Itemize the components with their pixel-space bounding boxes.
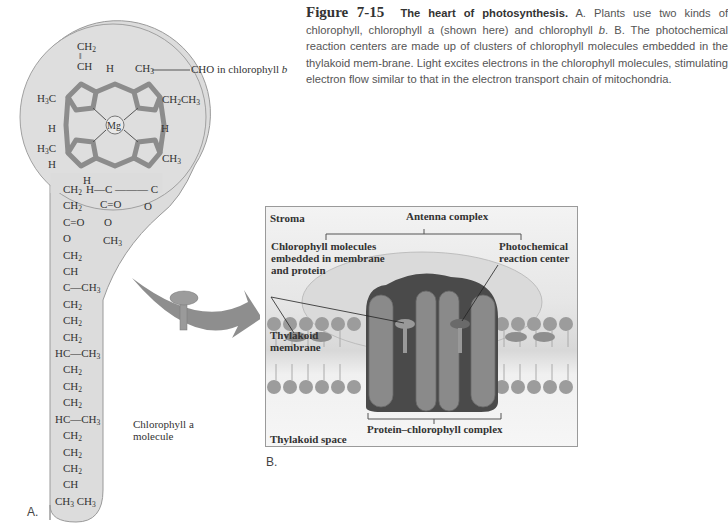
reaction-center-line1: Photochemical: [499, 240, 568, 252]
label-ch3-ester: CH3: [103, 234, 122, 246]
reaction-center-label: Photochemical reaction center: [499, 240, 569, 264]
molecule-label-line1: Chlorophyll a: [133, 418, 194, 430]
label-ch2ch3: CH2CH3: [162, 93, 200, 105]
panel-a-letter: A.: [27, 505, 38, 519]
phytol-tail: CH2CH2C=OOCH2CHC—CH3CH2CH2CH2HC—CH3CH2CH…: [63, 181, 100, 509]
panel-b-letter: B.: [266, 455, 277, 469]
label-ch: CH: [77, 60, 92, 72]
thylakoid-membrane-line2: membrane: [270, 341, 321, 353]
label-c-o: C=O: [100, 198, 121, 210]
label-ch3-top: CH3: [135, 62, 154, 74]
arrow-icon: [132, 278, 260, 338]
chlorophyll-label-line3: and protein: [271, 264, 326, 276]
molecule-label-line2: molecule: [133, 430, 173, 442]
thylakoid-membrane-panel: Stroma Antenna complex Chlorophyll molec…: [265, 206, 578, 447]
chlorophyll-label: Chlorophyll molecules embedded in membra…: [271, 240, 385, 276]
chlorophyll-molecule-diagram: [0, 0, 260, 526]
antenna-complex-label: Antenna complex: [406, 210, 488, 222]
label-ch3-right: CH3: [162, 152, 181, 164]
reaction-center-line2: reaction center: [499, 252, 569, 264]
label-mg: Mg: [107, 120, 121, 131]
protein-helices: [369, 291, 495, 411]
thylakoid-space-label: Thylakoid space: [270, 433, 347, 445]
stroma-label: Stroma: [270, 212, 305, 224]
label-h3c-1: H3C: [37, 92, 56, 104]
chlorophyll-label-line2: embedded in membrane: [271, 252, 385, 264]
label-o-ketone: O: [144, 200, 152, 212]
figure-number: Figure 7-15: [306, 4, 384, 20]
figure-caption: Figure 7-15 The heart of photosynthesis.…: [306, 4, 728, 88]
label-o-ester: O: [104, 216, 112, 228]
antenna-bracket: [326, 229, 521, 240]
chlorophyll-head-icon: [170, 291, 198, 305]
label-h-lower: H: [48, 158, 56, 170]
figure-title: The heart of photosynthesis.: [400, 7, 568, 19]
thylakoid-membrane-line1: Thylakoid: [270, 329, 318, 341]
label-h-left: H: [48, 122, 56, 134]
chlorophyll-label-line1: Chlorophyll molecules: [271, 240, 376, 252]
protein-complex-label: Protein–chlorophyll complex: [367, 423, 503, 435]
label-h-top: H: [106, 62, 114, 74]
label-h-right: H: [161, 122, 169, 134]
molecule-label: Chlorophyll a molecule: [133, 418, 223, 442]
annotation-cho: CHO in chlorophyll b: [191, 63, 287, 75]
thylakoid-membrane-label: Thylakoid membrane: [270, 329, 321, 353]
label-h3c-2: H3C: [37, 142, 56, 154]
